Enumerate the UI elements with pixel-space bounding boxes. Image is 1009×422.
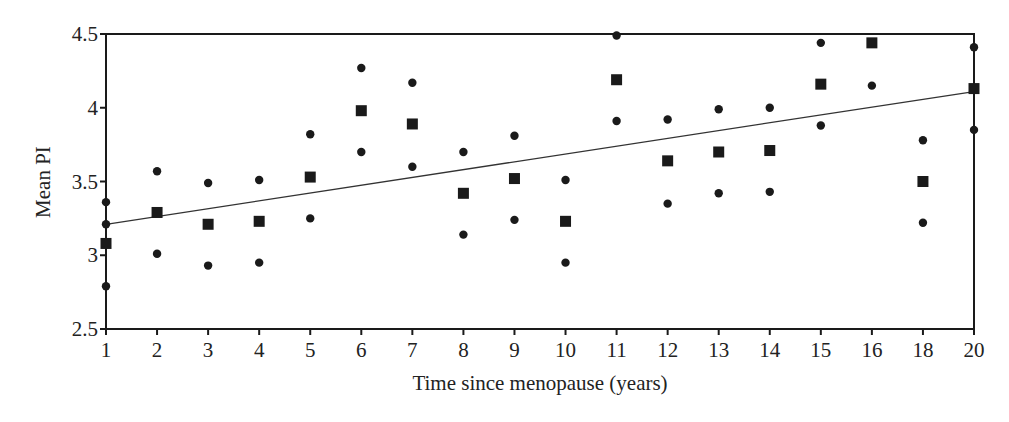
circle-marker <box>153 167 161 175</box>
x-tick-label: 13 <box>708 338 729 362</box>
y-tick-label: 4 <box>88 96 99 120</box>
x-tick-label: 7 <box>407 338 418 362</box>
circle-marker <box>459 148 467 156</box>
circle-marker <box>459 230 467 238</box>
circle-marker <box>715 105 723 113</box>
square-marker <box>866 37 877 48</box>
square-marker <box>713 147 724 158</box>
circle-marker <box>817 121 825 129</box>
square-marker <box>509 173 520 184</box>
x-tick-label: 6 <box>356 338 367 362</box>
y-axis-title: Mean PI <box>31 146 55 218</box>
y-tick-label: 4.5 <box>72 22 98 46</box>
square-marker <box>764 145 775 156</box>
y-tick-label: 2.5 <box>72 317 98 341</box>
circle-marker <box>919 136 927 144</box>
square-marker <box>407 118 418 129</box>
circle-marker <box>817 39 825 47</box>
square-marker <box>969 83 980 94</box>
x-tick-label: 5 <box>305 338 316 362</box>
circle-marker <box>919 219 927 227</box>
square-marker <box>662 155 673 166</box>
circle-marker <box>357 64 365 72</box>
x-axis: 123456789101112131415161820 <box>101 329 985 362</box>
square-marker <box>917 176 928 187</box>
x-tick-label: 14 <box>759 338 781 362</box>
y-axis: 2.533.544.5 <box>72 22 106 341</box>
circle-marker <box>561 176 569 184</box>
circle-marker <box>408 78 416 86</box>
x-tick-label: 10 <box>555 338 576 362</box>
circle-marker <box>408 163 416 171</box>
square-marker <box>356 105 367 116</box>
circle-marker <box>561 258 569 266</box>
x-tick-label: 15 <box>810 338 831 362</box>
x-tick-label: 1 <box>101 338 112 362</box>
circle-marker <box>102 282 110 290</box>
circle-marker <box>255 176 263 184</box>
scatter-chart: 2.533.544.5 123456789101112131415161820 … <box>0 0 1009 422</box>
circle-marker <box>612 31 620 39</box>
trend-line <box>106 92 974 225</box>
square-marker <box>305 172 316 183</box>
x-tick-label: 16 <box>861 338 882 362</box>
circle-marker <box>612 117 620 125</box>
circle-marker <box>306 214 314 222</box>
square-marker <box>152 207 163 218</box>
circle-marker <box>102 220 110 228</box>
circle-marker <box>766 188 774 196</box>
y-tick-label: 3 <box>88 243 99 267</box>
circle-marker <box>715 189 723 197</box>
circle-marker <box>204 179 212 187</box>
circle-marker <box>357 148 365 156</box>
x-tick-label: 11 <box>606 338 626 362</box>
circle-marker <box>663 199 671 207</box>
circle-marker <box>766 104 774 112</box>
circle-marker <box>255 258 263 266</box>
x-tick-label: 2 <box>152 338 163 362</box>
square-marker <box>815 79 826 90</box>
circle-marker <box>153 250 161 258</box>
circle-marker <box>970 126 978 134</box>
square-marker <box>254 216 265 227</box>
circle-marker <box>102 198 110 206</box>
data-points <box>101 31 980 290</box>
x-tick-label: 9 <box>509 338 520 362</box>
circle-marker <box>868 81 876 89</box>
circle-marker <box>970 43 978 51</box>
x-tick-label: 20 <box>964 338 985 362</box>
square-marker <box>611 74 622 85</box>
circle-marker <box>510 132 518 140</box>
square-marker <box>101 238 112 249</box>
circle-marker <box>663 115 671 123</box>
circle-marker <box>510 216 518 224</box>
x-tick-label: 12 <box>657 338 678 362</box>
circle-marker <box>306 130 314 138</box>
plot-frame <box>106 34 974 329</box>
x-axis-title: Time since menopause (years) <box>412 371 667 395</box>
x-tick-label: 18 <box>912 338 933 362</box>
y-tick-label: 3.5 <box>72 170 98 194</box>
square-marker <box>458 188 469 199</box>
x-tick-label: 4 <box>254 338 265 362</box>
circle-marker <box>204 261 212 269</box>
x-tick-label: 3 <box>203 338 214 362</box>
x-tick-label: 8 <box>458 338 469 362</box>
square-marker <box>560 216 571 227</box>
square-marker <box>203 219 214 230</box>
